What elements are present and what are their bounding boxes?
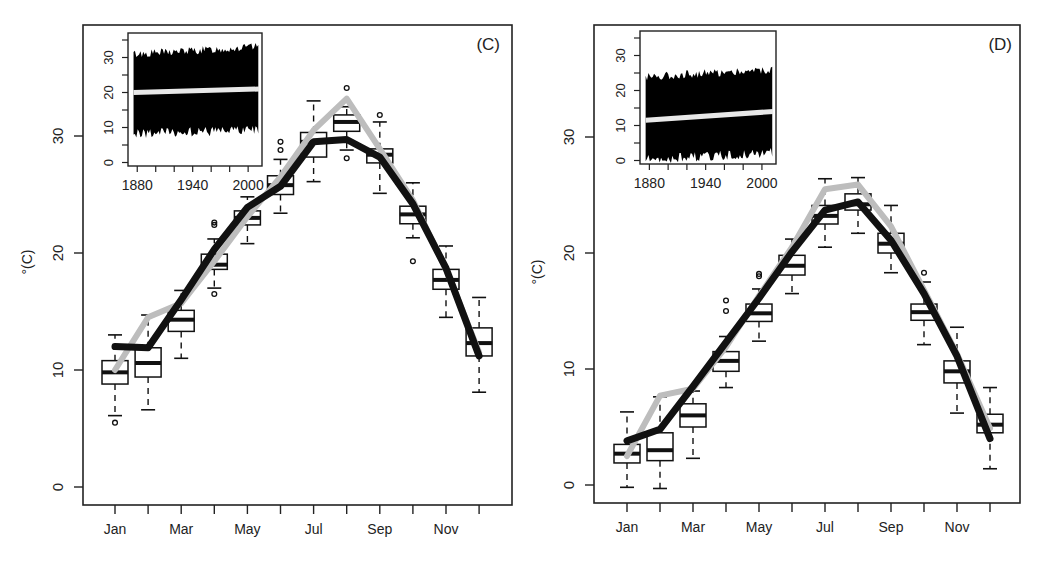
y-axis-label: °(C)	[19, 249, 35, 274]
x-tick-label: Nov	[434, 521, 459, 537]
x-tick-label: Mar	[681, 519, 705, 535]
y-tick-label: 10	[49, 362, 66, 379]
inset-x-tick-label: 2000	[233, 177, 264, 193]
panel-label: (C)	[476, 35, 500, 54]
x-tick-label: Jan	[104, 521, 127, 537]
outlier-point	[724, 309, 729, 314]
x-tick-label: Jan	[616, 519, 639, 535]
y-axis-label: °(C)	[529, 259, 545, 284]
box	[647, 433, 673, 461]
panel-label: (D)	[988, 35, 1012, 54]
inset-x-tick-label: 1940	[690, 175, 721, 191]
y-axis: 0102030°(C)	[529, 129, 594, 490]
y-tick-label: 20	[49, 245, 66, 262]
inset-y-tick-label: 20	[101, 85, 116, 99]
x-tick-label: Sep	[879, 519, 904, 535]
x-tick-label: May	[746, 519, 772, 535]
inset-y-tick-label: 30	[613, 48, 628, 62]
outlier-point	[278, 139, 283, 144]
x-tick-label: Nov	[945, 519, 970, 535]
outlier-point	[344, 156, 349, 161]
panel-d: 0102030°(C)JanMarMayJulSepNov(D)01020301…	[529, 25, 1020, 535]
y-tick-label: 30	[49, 128, 66, 145]
y-tick-label: 20	[560, 245, 577, 262]
y-tick-label: 0	[560, 481, 577, 489]
x-axis: JanMarMayJulSepNov	[104, 505, 479, 537]
y-tick-label: 30	[560, 129, 577, 146]
x-tick-label: Jul	[305, 521, 323, 537]
inset-x-tick-label: 1880	[634, 175, 665, 191]
boxplot-jan	[614, 412, 640, 487]
y-tick-label: 10	[560, 361, 577, 378]
inset-x-tick-label: 2000	[746, 175, 777, 191]
outlier-point	[377, 113, 382, 118]
inset-trend-line	[134, 89, 260, 93]
inset-y-tick-label: 10	[101, 120, 116, 134]
inset-y-tick-label: 10	[613, 118, 628, 132]
outlier-point	[344, 86, 349, 91]
inset-y-tick-label: 30	[101, 50, 116, 64]
outlier-point	[922, 270, 927, 275]
inset-x-tick-label: 1880	[122, 177, 153, 193]
black-series-line	[627, 202, 990, 441]
y-tick-label: 0	[49, 483, 66, 491]
x-tick-label: Jul	[816, 519, 834, 535]
inset-y-tick-label: 0	[101, 159, 116, 166]
figure: 0102030°(C)JanMarMayJulSepNov(C)01020301…	[0, 0, 1043, 563]
inset-timeseries: 0102030188019402000	[613, 31, 778, 191]
panel-c: 0102030°(C)JanMarMayJulSepNov(C)01020301…	[19, 25, 512, 537]
outlier-point	[724, 298, 729, 303]
inset-y-tick-label: 20	[613, 83, 628, 97]
x-tick-label: Mar	[169, 521, 193, 537]
outlier-point	[113, 420, 118, 425]
outlier-point	[212, 292, 217, 297]
outlier-point	[278, 148, 283, 153]
x-axis: JanMarMayJulSepNov	[616, 503, 990, 535]
x-tick-label: Sep	[367, 521, 392, 537]
inset-x-tick-label: 1940	[177, 177, 208, 193]
y-axis: 0102030°(C)	[19, 128, 83, 492]
inset-y-tick-label: 0	[613, 157, 628, 164]
x-tick-label: May	[234, 521, 260, 537]
outlier-point	[411, 259, 416, 264]
inset-timeseries: 0102030188019402000	[101, 33, 264, 193]
